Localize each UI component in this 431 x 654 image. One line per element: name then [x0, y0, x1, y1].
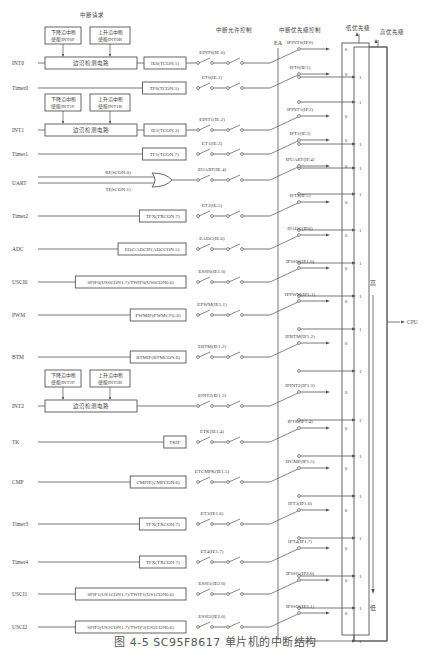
arrow-icon [326, 138, 330, 141]
ea-switch[interactable] [227, 519, 244, 525]
switch-contact-icon [241, 561, 244, 564]
switch-contact-icon [241, 129, 244, 132]
switch-contact-icon [227, 87, 230, 90]
switch-contact-icon [197, 405, 200, 408]
priority-bit-label: IPCMP(IP1.5) [285, 459, 314, 464]
priority-bit-label: IPT3(IP1.6) [288, 501, 312, 506]
switch-contact-icon [298, 547, 301, 550]
enable-switch[interactable] [197, 557, 214, 563]
ea-switch[interactable] [227, 352, 244, 358]
arrow-icon [401, 320, 405, 323]
enable-switch[interactable] [197, 477, 214, 483]
flag-label: PWMIF(PWMCFG.6) [136, 313, 181, 318]
arrow-icon [326, 426, 330, 429]
enable-switch[interactable] [197, 519, 214, 525]
ea-switch[interactable] [227, 125, 244, 131]
enable-switch[interactable] [197, 125, 214, 131]
enable-switch[interactable] [197, 352, 214, 358]
ea-switch[interactable] [227, 211, 244, 217]
ea-switch[interactable] [227, 401, 244, 407]
flag-label: TKIF [169, 440, 180, 445]
ea-switch[interactable] [227, 277, 244, 283]
ea-switch[interactable] [227, 557, 244, 563]
priority-switch[interactable] [298, 391, 301, 422]
priority-bit-label: IPUART(IP.4) [286, 157, 315, 162]
enable-switch[interactable] [197, 589, 214, 595]
switch-contact-icon [197, 215, 200, 218]
priority-switch[interactable] [298, 300, 301, 331]
flag-label: TF1(TCON.7) [150, 152, 179, 157]
falling-edge-bit: 使能INT2F [51, 379, 75, 386]
switch-contact-icon [241, 153, 244, 156]
switch-contact-icon [227, 405, 230, 408]
enable-switch[interactable] [197, 149, 214, 155]
ea-switch[interactable] [227, 622, 244, 628]
flag-label: TFX(TXCON.7) [146, 522, 180, 527]
enable-switch[interactable] [197, 622, 214, 628]
switch-contact-icon [197, 561, 200, 564]
rising-edge-label: 上升沿中断 [98, 29, 123, 36]
switch-contact-icon [241, 523, 244, 526]
enable-switch[interactable] [197, 310, 214, 316]
switch-contact-icon [298, 201, 301, 204]
ea-switch[interactable] [227, 149, 244, 155]
switch-contact-icon [298, 115, 301, 118]
switch-contact-icon [298, 76, 301, 79]
ea-switch[interactable] [227, 477, 244, 483]
switch-contact-icon [227, 481, 230, 484]
flag-label: SPIF2(US2CON1.7)/TWIF2(US2CON0.6) [87, 625, 174, 630]
interrupt-source-int0: INT0下降沿中断使能INT0F上升沿中断使能INT0R边沿检测电路IE0(TC… [12, 27, 362, 80]
priority-bit-label: IPT1(IP.3) [290, 131, 311, 136]
enable-bit-label: EINT2(IE1.3) [198, 393, 227, 398]
source-name: Timer4 [12, 559, 28, 565]
enable-bit-label: ESSI2(IE2.0) [198, 614, 225, 619]
ea-switch[interactable] [227, 310, 244, 316]
enable-bit-label: EADC(IE.6) [199, 236, 225, 241]
source-name: INT1 [12, 127, 24, 133]
flag-label: TFX(TXCON.7) [146, 560, 180, 565]
priority-switch[interactable] [298, 467, 301, 498]
switch-contact-icon [197, 129, 200, 132]
enable-switch[interactable] [197, 83, 214, 89]
ea-switch[interactable] [227, 175, 244, 181]
enable-bit-label: ETCMPK(IE1.5) [195, 469, 230, 474]
ea-switch[interactable] [227, 244, 244, 250]
priority-bit-label: IPPWM(IP1.1) [285, 292, 316, 297]
priority-switch[interactable] [298, 342, 301, 373]
priority-bit-label: IPINT1(IP.2) [287, 107, 314, 112]
source-name: PWM [12, 312, 25, 318]
enable-switch[interactable] [197, 401, 214, 407]
priority-switch[interactable] [298, 509, 301, 540]
enable-switch[interactable] [197, 244, 214, 250]
switch-contact-icon [241, 481, 244, 484]
source-name: INT2 [12, 403, 24, 409]
ea-switch[interactable] [227, 58, 244, 64]
switch-contact-icon [241, 405, 244, 408]
switch-contact-icon [298, 455, 301, 458]
interrupt-source-int2: INT2下降沿中断使能INT2F上升沿中断使能INT2R边沿检测电路EINT2(… [12, 370, 362, 423]
switch-contact-icon [227, 314, 230, 317]
enable-switch[interactable] [197, 175, 214, 181]
ri-label: RI(SCON.0) [105, 170, 131, 175]
switch-contact-icon [197, 314, 200, 317]
ea-switch[interactable] [227, 83, 244, 89]
enable-switch[interactable] [197, 277, 214, 283]
switch-contact-icon [211, 281, 214, 284]
arrow-icon [326, 47, 330, 50]
priority-high-label: 高 [370, 279, 376, 287]
flag-label: IE1(TCON.3) [151, 128, 179, 133]
enable-switch[interactable] [197, 211, 214, 217]
switch-contact-icon [211, 248, 214, 251]
arrow-icon [326, 390, 330, 393]
switch-contact-icon [298, 267, 301, 270]
enable-switch[interactable] [197, 437, 214, 443]
switch-contact-icon [197, 481, 200, 484]
ea-switch[interactable] [227, 437, 244, 443]
enable-switch[interactable] [197, 58, 214, 64]
ea-switch[interactable] [227, 589, 244, 595]
priority-switch[interactable] [298, 427, 301, 458]
rising-edge-bit: 使能INT1R [98, 103, 123, 110]
switch-contact-icon [211, 441, 214, 444]
arrow-icon [326, 466, 330, 469]
arrow-icon [374, 39, 377, 43]
